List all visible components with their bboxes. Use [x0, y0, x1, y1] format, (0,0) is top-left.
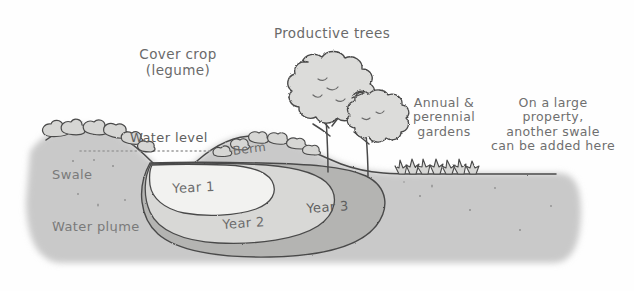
swale-diagram: Cover crop (legume) Productive trees Ann… — [0, 0, 634, 291]
diagram-illustration — [0, 0, 634, 291]
water-plume-lobes — [142, 162, 385, 257]
year-1-lobe — [150, 164, 275, 215]
garden-plants — [395, 159, 479, 174]
tree-canopy-right — [347, 90, 409, 142]
